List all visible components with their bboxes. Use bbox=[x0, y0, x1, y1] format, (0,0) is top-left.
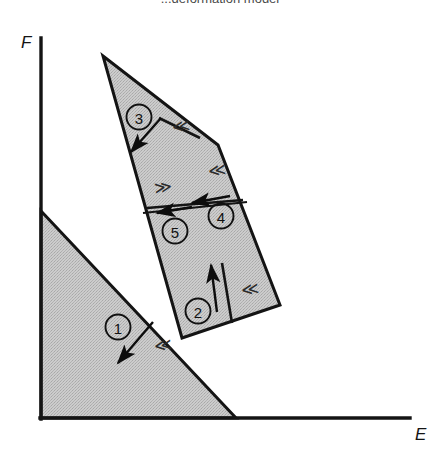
region-label-3: 3 bbox=[135, 110, 143, 127]
figure-root: ...deformation model bbox=[0, 0, 440, 453]
shear-marker-m3: ≪ bbox=[171, 116, 191, 137]
f-axis-label: F bbox=[21, 33, 33, 52]
region-label-5: 5 bbox=[171, 224, 179, 241]
shear-marker-m1: ≪ bbox=[153, 335, 173, 356]
region-label-4: 4 bbox=[217, 209, 225, 226]
shear-marker-m4: ≪ bbox=[207, 160, 227, 181]
shear-marker-m5: ≫ bbox=[153, 177, 173, 198]
e-axis-label: E bbox=[415, 425, 427, 444]
shear-marker-m2: ≪ bbox=[240, 279, 260, 300]
diagram-canvas: ≪ ≪ ≪ ≪ ≫ F E 1 2 3 bbox=[0, 0, 440, 453]
region-label-2: 2 bbox=[194, 304, 202, 321]
region-label-1: 1 bbox=[114, 320, 122, 337]
fault-block-group bbox=[41, 56, 280, 418]
